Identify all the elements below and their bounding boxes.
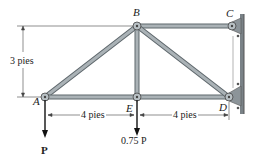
- label-b: B: [133, 6, 140, 18]
- label-e: E: [125, 102, 133, 114]
- load-arrow-e: [134, 100, 140, 136]
- span-right-label: 4 pies: [173, 109, 197, 120]
- span-left-label: 4 pies: [81, 109, 105, 120]
- label-d: D: [218, 101, 227, 113]
- height-dimension: [17, 26, 137, 97]
- load-label-e: 0.75 P: [121, 135, 147, 146]
- load-label-a: P: [41, 144, 48, 156]
- label-a: A: [32, 95, 40, 107]
- load-arrow-a: [42, 100, 48, 138]
- truss-members: [45, 26, 232, 97]
- label-c: C: [226, 7, 234, 19]
- span-dimensions: [48, 102, 229, 120]
- truss-diagram: 3 pies B C A E D: [0, 0, 256, 168]
- height-label: 3 pies: [10, 55, 34, 66]
